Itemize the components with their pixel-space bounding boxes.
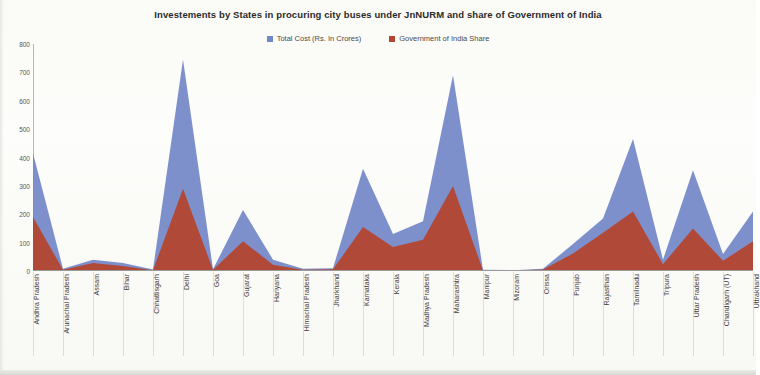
y-tick-label: 0 bbox=[8, 268, 30, 275]
x-tick: Madhya Pradesh bbox=[418, 274, 428, 370]
x-tick: Himachal Pradesh bbox=[298, 274, 308, 370]
x-tick-label: Andhra Pradesh bbox=[33, 274, 40, 325]
y-tick-label: 600 bbox=[8, 97, 30, 104]
y-tick-label: 100 bbox=[8, 239, 30, 246]
x-tick-label: Chandigarh (UT) bbox=[723, 274, 730, 326]
x-tick: Uttar Pradesh bbox=[688, 274, 698, 370]
x-tick-label: Madhya Pradesh bbox=[423, 274, 430, 327]
x-tick: Kerala bbox=[388, 274, 398, 370]
y-tick-label: 700 bbox=[8, 69, 30, 76]
x-tick-label: Punjab bbox=[573, 274, 580, 296]
x-tick: Rajasthan bbox=[598, 274, 608, 370]
x-tick-label: Mizoram bbox=[513, 274, 520, 301]
x-tick-label: Goa bbox=[213, 274, 220, 287]
x-tick: Assam bbox=[88, 274, 98, 370]
x-tick: Uttrakhand bbox=[748, 274, 758, 370]
x-tick: Arunachal Pradesh bbox=[58, 274, 68, 370]
x-tick: Delhi bbox=[178, 274, 188, 370]
x-tick: Hariyana bbox=[268, 274, 278, 370]
x-tick-label: Jharkhand bbox=[333, 274, 340, 307]
x-tick: Orissa bbox=[538, 274, 548, 370]
x-tick: Mizoram bbox=[508, 274, 518, 370]
x-tick: Tripura bbox=[658, 274, 668, 370]
y-tick-label: 300 bbox=[8, 182, 30, 189]
page-bottom-edge-shadow bbox=[0, 370, 756, 375]
x-tick-label: Assam bbox=[93, 274, 100, 295]
x-tick: Jharkhand bbox=[328, 274, 338, 370]
x-axis-line bbox=[33, 270, 753, 271]
x-tick-label: Bihar bbox=[123, 274, 130, 290]
x-tick: Manipur bbox=[478, 274, 488, 370]
x-tick-label: Tripura bbox=[663, 274, 670, 296]
x-tick-label: Arunachal Pradesh bbox=[63, 274, 70, 334]
x-tick: Gujarat bbox=[238, 274, 248, 370]
x-tick-label: Chhattisgarh bbox=[153, 274, 160, 314]
y-tick-label: 200 bbox=[8, 211, 30, 218]
x-axis: Andhra PradeshArunachal PradeshAssamBiha… bbox=[33, 272, 753, 372]
x-tick-label: Himachal Pradesh bbox=[303, 274, 310, 331]
x-tick-label: Uttrakhand bbox=[753, 274, 760, 308]
x-tick-label: Hariyana bbox=[273, 274, 280, 302]
x-tick-label: Maharashtra bbox=[453, 274, 460, 313]
x-tick-label: Orissa bbox=[543, 274, 550, 294]
y-axis: 8007006005004003002001000 bbox=[8, 40, 30, 272]
x-tick-label: Manipur bbox=[483, 274, 490, 299]
x-tick-label: Kerala bbox=[393, 274, 400, 294]
x-tick: Tamilnadu bbox=[628, 274, 638, 370]
x-tick: Bihar bbox=[118, 274, 128, 370]
x-tick: Goa bbox=[208, 274, 218, 370]
x-tick: Chandigarh (UT) bbox=[718, 274, 728, 370]
x-tick-label: Tamilnadu bbox=[633, 274, 640, 306]
x-tick-label: Uttar Pradesh bbox=[693, 274, 700, 317]
x-tick-label: Rajasthan bbox=[603, 274, 610, 306]
area-chart-svg bbox=[33, 44, 753, 271]
x-tick-label: Karnataka bbox=[363, 274, 370, 306]
x-tick: Andhra Pradesh bbox=[28, 274, 38, 370]
x-tick: Karnataka bbox=[358, 274, 368, 370]
y-tick-label: 800 bbox=[8, 41, 30, 48]
x-tick-label: Delhi bbox=[183, 274, 190, 290]
x-tick: Maharashtra bbox=[448, 274, 458, 370]
x-tick: Punjab bbox=[568, 274, 578, 370]
x-tick-label: Gujarat bbox=[243, 274, 250, 297]
y-tick-label: 400 bbox=[8, 154, 30, 161]
y-tick-label: 500 bbox=[8, 126, 30, 133]
x-tick: Chhattisgarh bbox=[148, 274, 158, 370]
